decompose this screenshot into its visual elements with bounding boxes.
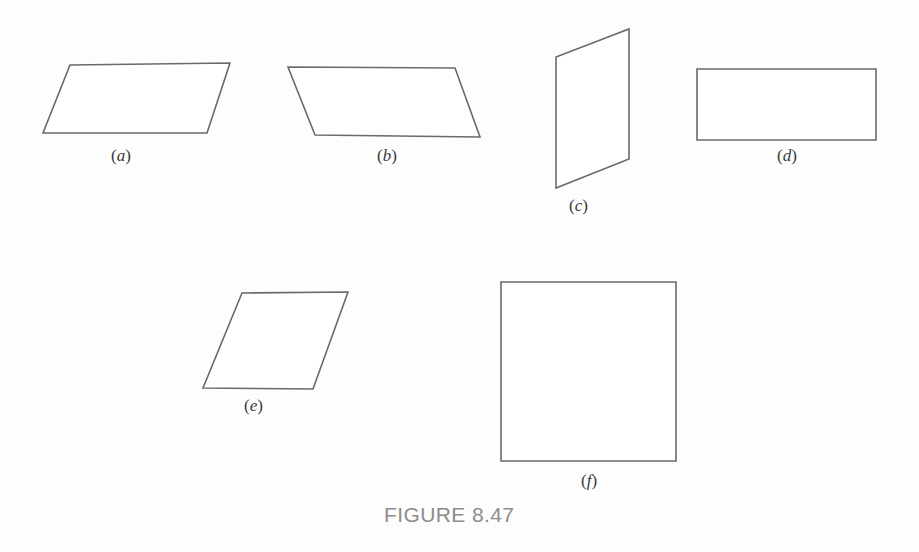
label-letter-d: d [783,146,792,165]
shape-label-a: (a) [111,146,131,166]
shape-label-c: (c) [569,196,588,216]
label-close-paren-a: ) [125,146,131,165]
figure-canvas [0,0,919,552]
label-close-paren-f: ) [591,471,597,490]
label-letter-a: a [117,146,126,165]
shape-label-f: (f) [581,471,597,491]
parallelogram-a [43,63,230,133]
parallelogram-c [556,29,629,188]
rectangle-d [697,69,876,140]
shape-label-d: (d) [777,146,797,166]
shape-label-e: (e) [244,396,263,416]
rhombus-e [203,292,348,389]
square-f [501,282,676,461]
figure-page: (a) (b) (c) (d) (e) (f) FIGURE 8.47 [0,0,919,552]
parallelogram-b [288,67,480,137]
label-letter-b: b [383,146,392,165]
shape-label-b: (b) [377,146,397,166]
figure-caption: FIGURE 8.47 [384,503,514,527]
label-close-paren-e: ) [257,396,263,415]
label-close-paren-b: ) [391,146,397,165]
label-close-paren-d: ) [791,146,797,165]
label-close-paren-c: ) [582,196,588,215]
